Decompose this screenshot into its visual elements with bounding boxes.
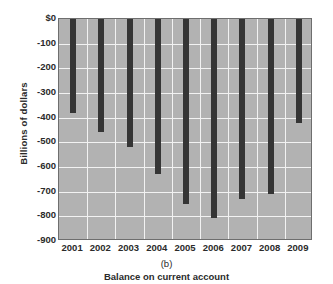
y-axis-tick-label: -200 [18, 63, 56, 73]
bar [268, 19, 274, 194]
y-axis-tick-label: -900 [18, 235, 56, 245]
plot-area [58, 18, 312, 240]
bar [98, 19, 104, 132]
gridline-vertical [200, 19, 201, 239]
chart-caption: Balance on current account [0, 271, 333, 282]
gridline-vertical [228, 19, 229, 239]
x-axis-tick-label: 2009 [281, 243, 315, 253]
y-axis-tick-labels: $0-100-200-300-400-500-600-700-800-900 [18, 18, 56, 240]
gridline-vertical [257, 19, 258, 239]
gridline-vertical [285, 19, 286, 239]
y-axis-tick-label: -500 [18, 137, 56, 147]
bar [183, 19, 189, 204]
panel-letter: (b) [0, 258, 333, 269]
gridline-vertical [172, 19, 173, 239]
gridline-vertical [115, 19, 116, 239]
y-axis-tick-label: $0 [18, 13, 56, 23]
y-axis-tick-label: -800 [18, 211, 56, 221]
gridline-vertical [87, 19, 88, 239]
y-axis-tick-label: -400 [18, 112, 56, 122]
bar [239, 19, 245, 199]
y-axis-tick-label: -100 [18, 38, 56, 48]
bar [296, 19, 302, 123]
y-axis-tick-label: -700 [18, 186, 56, 196]
gridline-vertical [144, 19, 145, 239]
bar [70, 19, 76, 113]
bar [155, 19, 161, 174]
bar [211, 19, 217, 218]
chart-figure: Billions of dollars $0-100-200-300-400-5… [0, 0, 333, 284]
bar [127, 19, 133, 147]
y-axis-tick-label: -300 [18, 87, 56, 97]
y-axis-tick-label: -600 [18, 161, 56, 171]
gridline-horizontal [59, 216, 311, 217]
x-axis-tick-labels: 200120022003200420052006200720082009 [58, 243, 312, 257]
